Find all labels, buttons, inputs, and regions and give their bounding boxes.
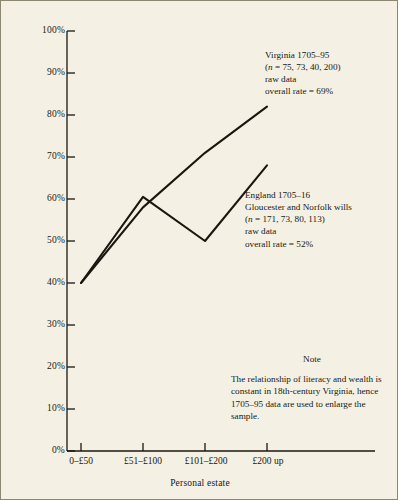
y-axis-ticks: [67, 31, 75, 451]
annotation-virginia-line3: raw data: [265, 73, 341, 85]
annotation-england-line3: (n = 171, 73, 80, 113): [245, 213, 352, 225]
series-line-england: [81, 165, 267, 283]
x-tick-label-1: 0–£50: [69, 457, 93, 467]
note-body: The relationship of literacy and wealth …: [231, 373, 393, 423]
x-axis-ticks: [81, 443, 267, 451]
annotation-virginia: Virginia 1705–95 (n = 75, 73, 40, 200) r…: [265, 49, 341, 98]
x-tick-label-4: £200 up: [253, 457, 284, 467]
annotation-virginia-line4: overall rate = 69%: [265, 85, 341, 97]
annotation-virginia-line2: (n = 75, 73, 40, 200): [265, 61, 341, 73]
annotation-england-line2: Gloucester and Norfolk wills: [245, 201, 352, 213]
annotation-england: England 1705–16 Gloucester and Norfolk w…: [245, 189, 352, 250]
x-tick-label-2: £51–£100: [124, 457, 162, 467]
annotation-england-line5: overall rate = 52%: [245, 238, 352, 250]
x-tick-label-3: £101–£200: [185, 457, 228, 467]
annotation-england-line1: England 1705–16: [245, 189, 352, 201]
note-heading: Note: [231, 353, 393, 366]
x-axis-title: Personal estate: [1, 478, 398, 488]
series-line-virginia: [81, 107, 267, 283]
note-block: Note The relationship of literacy and we…: [231, 353, 393, 423]
annotation-virginia-line1: Virginia 1705–95: [265, 49, 341, 61]
annotation-england-line4: raw data: [245, 225, 352, 237]
figure-frame: 0% 10% 20% 30% 40% 50% 60% 70% 80% 90% 1…: [0, 0, 398, 500]
